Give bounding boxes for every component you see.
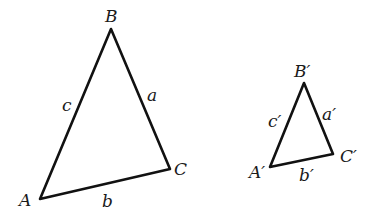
side-label-a-prime: a′ <box>322 104 336 124</box>
triangle-large-outline <box>40 29 170 199</box>
side-label-b: b <box>102 191 113 208</box>
side-label-c-prime: c′ <box>268 111 282 131</box>
vertex-label-C-prime: C′ <box>340 146 357 166</box>
similar-triangles-diagram: B C A c a b B′ C′ A′ c′ a′ b′ <box>0 0 373 208</box>
side-label-a: a <box>147 85 157 105</box>
triangle-large: B C A c a b <box>17 6 187 208</box>
vertex-label-A-prime: A′ <box>247 162 265 182</box>
side-label-b-prime: b′ <box>299 165 314 185</box>
vertex-label-A: A <box>17 190 31 208</box>
vertex-label-C: C <box>174 159 187 179</box>
triangle-small: B′ C′ A′ c′ a′ b′ <box>247 61 357 185</box>
vertex-label-B-prime: B′ <box>293 61 310 81</box>
side-label-c: c <box>62 95 72 115</box>
vertex-label-B: B <box>104 6 118 26</box>
